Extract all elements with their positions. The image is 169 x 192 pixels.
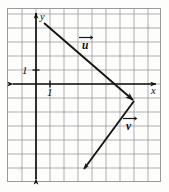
vector-v-label: v bbox=[126, 120, 132, 132]
x-axis-label: x bbox=[150, 85, 156, 96]
vector-figure: u v 1 1 x y bbox=[0, 0, 169, 192]
figure-background bbox=[0, 0, 169, 192]
x-unit-label: 1 bbox=[47, 86, 53, 98]
vector-u-label: u bbox=[82, 39, 89, 51]
coordinate-plane-svg: u v 1 1 x y bbox=[0, 0, 169, 192]
y-axis-label: y bbox=[39, 11, 45, 22]
y-unit-label: 1 bbox=[22, 64, 28, 76]
